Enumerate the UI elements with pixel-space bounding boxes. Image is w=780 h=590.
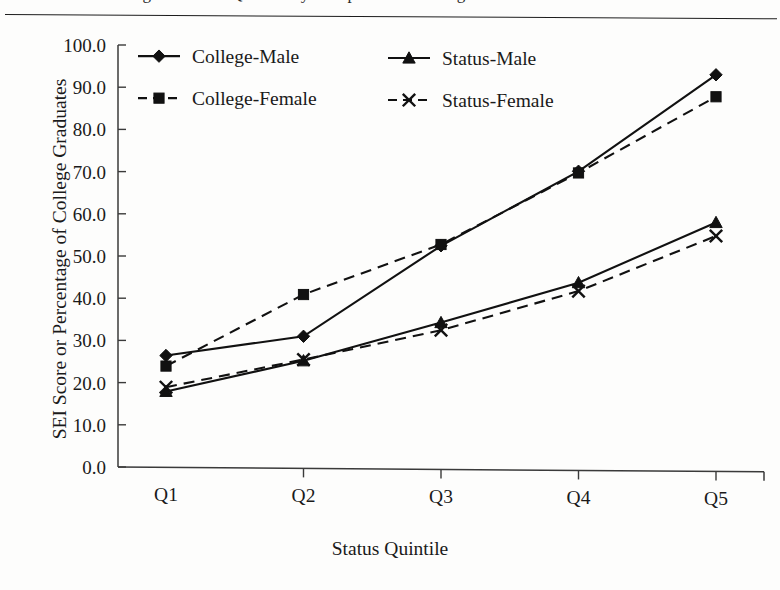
y-axis-tick-label: 40.0 [73,288,106,309]
data-point [160,349,172,361]
x-axis-label: Status Quintile [0,538,780,560]
data-point [161,361,171,371]
legend-marker [153,50,165,62]
legend-item-status-male[interactable]: Status-Male [388,48,536,69]
y-axis-tick-marks [118,45,126,467]
data-point [711,92,721,102]
legend-label: College-Female [192,88,317,109]
series-status-female [160,230,722,394]
legend-marker [154,93,164,103]
chart-svg: 0.010.020.030.040.050.060.070.080.090.01… [0,0,780,590]
chart-legend: College-MaleCollege-FemaleStatus-MaleSta… [138,46,554,111]
legend-label: College-Male [192,46,299,67]
y-axis-label: SEI Score or Percentage of College Gradu… [49,49,71,469]
line-chart: 0.010.020.030.040.050.060.070.080.090.01… [0,0,780,590]
y-axis-tick-label: 20.0 [73,373,106,394]
series-line [166,75,716,356]
legend-item-college-male[interactable]: College-Male [138,46,299,67]
legend-label: Status-Male [442,48,536,69]
x-axis-tick-label-q4: Q4 [567,487,591,508]
legend-label: Status-Female [442,90,554,111]
data-point [710,216,722,227]
legend-item-status-female[interactable]: Status-Female [388,90,554,111]
y-axis-tick-label: 0.0 [82,457,106,478]
y-axis-tick-label: 90.0 [73,77,106,98]
series-group [160,69,722,397]
x-axis-tick-label-q3: Q3 [429,486,453,507]
chart-page: Figure: Status Quintile by Completed Sch… [0,0,780,590]
data-point [710,69,722,81]
data-point [710,230,722,242]
y-axis-tick-label: 30.0 [73,330,106,351]
data-point [297,330,309,342]
y-axis-tick-label: 80.0 [73,119,106,140]
y-axis-tick-label: 50.0 [73,246,106,267]
y-axis-tick-label: 70.0 [73,162,106,183]
data-point [298,289,308,299]
x-axis-tick-label-q1: Q1 [154,484,178,505]
x-axis-tick-label-q5: Q5 [704,488,728,509]
y-axis-tick-label: 10.0 [73,415,106,436]
legend-item-college-female[interactable]: College-Female [138,88,317,109]
y-axis-tick-label: 60.0 [73,204,106,225]
x-axis-tick-label-q2: Q2 [292,485,316,506]
x-axis-tick-labels: Q1Q2Q3Q4Q5 [154,484,728,509]
data-point [573,168,583,178]
data-point [436,239,446,249]
